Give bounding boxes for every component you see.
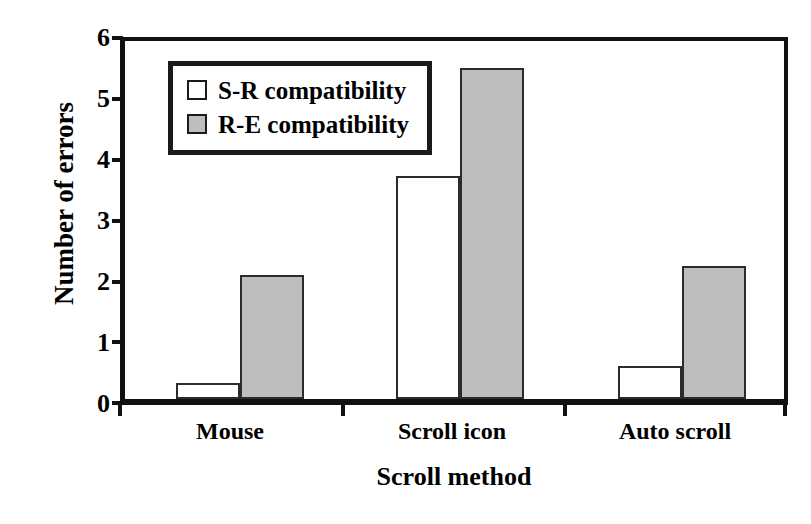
- x-tick-mark-2: [563, 404, 567, 416]
- white-square-icon: [187, 80, 207, 100]
- legend-entry-sr-compatibility: S-R compatibility: [187, 73, 409, 107]
- bar-mouse-re-compatibility: [240, 275, 304, 399]
- legend-label-sr-compatibility: S-R compatibility: [218, 78, 406, 103]
- x-tick-mark-1: [341, 404, 345, 416]
- x-tick-mark-end: [783, 404, 787, 416]
- bar-auto-scroll-sr-compatibility: [618, 366, 682, 399]
- y-tick-label-3: 3: [76, 208, 110, 234]
- y-tick-label-6: 6: [76, 25, 110, 51]
- bar-chart: Number of errors 6 5 4 3 2 1 0 S-R compa…: [0, 0, 811, 524]
- y-axis-title: Number of errors: [49, 74, 80, 334]
- bar-auto-scroll-re-compatibility: [682, 266, 746, 399]
- x-tick-label-mouse: Mouse: [150, 418, 310, 445]
- y-tick-label-5: 5: [76, 86, 110, 112]
- gray-square-icon: [187, 114, 207, 134]
- y-tick-label-0: 0: [76, 391, 110, 417]
- legend-label-re-compatibility: R-E compatibility: [218, 112, 409, 137]
- y-tick-label-1: 1: [76, 330, 110, 356]
- bar-mouse-sr-compatibility: [176, 383, 240, 399]
- bar-scroll-icon-sr-compatibility: [396, 176, 460, 399]
- legend-entry-re-compatibility: R-E compatibility: [187, 107, 409, 141]
- y-tick-label-4: 4: [76, 147, 110, 173]
- legend: S-R compatibility R-E compatibility: [168, 61, 432, 155]
- bar-scroll-icon-re-compatibility: [460, 68, 524, 399]
- x-axis-title: Scroll method: [120, 462, 788, 492]
- y-tick-label-2: 2: [76, 269, 110, 295]
- x-tick-mark-start: [118, 404, 122, 416]
- x-tick-label-scroll-icon: Scroll icon: [372, 418, 532, 445]
- x-tick-label-auto-scroll: Auto scroll: [595, 418, 755, 445]
